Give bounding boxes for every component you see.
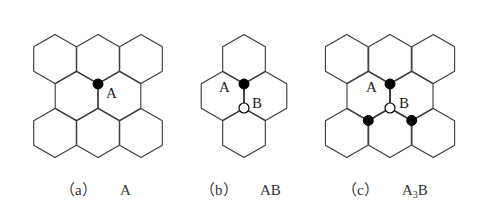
hexagon-cell (77, 108, 120, 157)
hexagon-cell (244, 71, 287, 120)
hexagon-cell (34, 108, 77, 157)
atom-a-filled-dot (407, 116, 417, 126)
panel-c-label-B: B (399, 95, 409, 111)
caption-a-label: （a） (60, 182, 97, 198)
panel-c-label-A: A (366, 79, 377, 95)
hexagon-cell (77, 34, 120, 83)
bond-lines (244, 84, 412, 121)
caption-a-formula: A (120, 182, 131, 198)
hexagon-cell (55, 71, 98, 120)
caption-c-formula-tail: B (418, 182, 428, 198)
hexagon-cell (120, 108, 163, 157)
hexagon-cell (412, 34, 455, 83)
hexagon-cell (223, 34, 266, 83)
atom-a-filled-dot (239, 79, 249, 89)
hexagon-cell (120, 34, 163, 83)
adsorption-structure-figure: A A B A B （a） A （b） AB （c） A3B (0, 0, 480, 207)
hexagon-cell (369, 34, 412, 83)
hexagon-cell (98, 71, 141, 120)
hexagon-cell (390, 71, 433, 120)
hexagon-cell (34, 34, 77, 83)
caption-b-formula: AB (260, 182, 281, 198)
atom-b-open-dot (385, 103, 395, 113)
atom-b-open-dot (239, 103, 249, 113)
hexagon-cell (325, 34, 368, 83)
panel-b-label-B: B (252, 95, 262, 111)
atom-a-filled-dot (385, 79, 395, 89)
caption-b-label: （b） (200, 182, 238, 198)
caption-c-formula: A3B (402, 182, 428, 200)
hexagon-cell (325, 108, 368, 157)
panel-b-label-A: A (219, 79, 230, 95)
hexagon-cell (412, 108, 455, 157)
atom-a-filled-dot (93, 79, 103, 89)
hexagon-cell (369, 108, 412, 157)
caption-c-formula-main: A (402, 182, 413, 198)
atom-a-filled-dot (363, 116, 373, 126)
caption-c-label: （c） (342, 182, 379, 198)
hexagon-cell (223, 108, 266, 157)
panel-a-label-A: A (106, 85, 117, 101)
